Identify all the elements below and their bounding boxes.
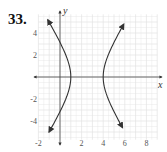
x-tick-label: 2 (80, 139, 84, 148)
x-tick-label: 8 (144, 139, 148, 148)
tick-labels: -22468-4-224 (30, 29, 148, 148)
y-axis-label: y (62, 5, 68, 16)
y-tick-label: 4 (33, 29, 37, 38)
left-branch (48, 20, 71, 132)
y-tick-label: -4 (30, 117, 37, 126)
y-tick-label: -2 (30, 95, 37, 104)
x-axis-label: x (157, 79, 163, 90)
right-branch (103, 24, 124, 127)
x-tick-label: 4 (101, 139, 105, 148)
hyperbola-curves (48, 20, 124, 132)
y-tick-label: 2 (33, 51, 37, 60)
hyperbola-graph: xy -22468-4-224 (0, 0, 167, 152)
x-tick-label: -2 (35, 139, 42, 148)
x-tick-label: 6 (123, 139, 127, 148)
